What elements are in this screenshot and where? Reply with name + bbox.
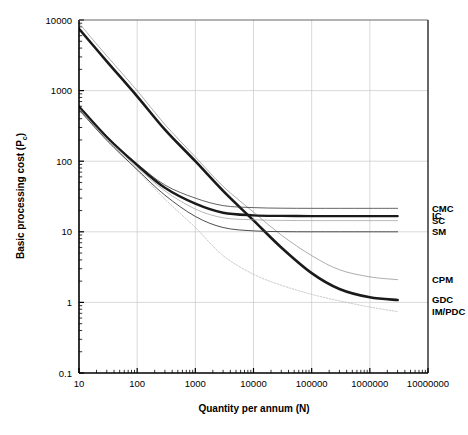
series-label-sc: SC bbox=[432, 215, 445, 226]
x-tick-label: 100000 bbox=[296, 378, 328, 389]
y-tick-label: 0.1 bbox=[59, 368, 72, 379]
x-tick-label: 10000 bbox=[240, 378, 266, 389]
series-label-gdc: GDC bbox=[432, 294, 453, 305]
log-log-line-chart: 10100100010000100000100000010000000 1000… bbox=[0, 0, 468, 435]
x-tick-label: 10 bbox=[74, 378, 85, 389]
y-axis-title-main: Basic processing cost (P bbox=[15, 140, 26, 259]
y-tick-label: 10 bbox=[61, 226, 72, 237]
chart-figure: 10100100010000100000100000010000000 1000… bbox=[0, 0, 468, 435]
x-tick-label: 1000000 bbox=[351, 378, 388, 389]
x-tick-label: 100 bbox=[129, 378, 145, 389]
y-tick-label: 1 bbox=[67, 297, 72, 308]
y-tick-label: 1000 bbox=[51, 85, 72, 96]
x-tick-label: 1000 bbox=[185, 378, 206, 389]
y-axis-title-tail: ) bbox=[15, 133, 26, 136]
series-label-sm: SM bbox=[432, 226, 446, 237]
x-axis-title: Quantity per annum (N) bbox=[198, 403, 309, 414]
series-label-cpm: CPM bbox=[432, 274, 453, 285]
y-tick-label: 100 bbox=[56, 156, 72, 167]
y-tick-label: 10000 bbox=[46, 15, 72, 26]
x-tick-label: 10000000 bbox=[407, 378, 449, 389]
series-label-im-pdc: IM/PDC bbox=[432, 306, 465, 317]
